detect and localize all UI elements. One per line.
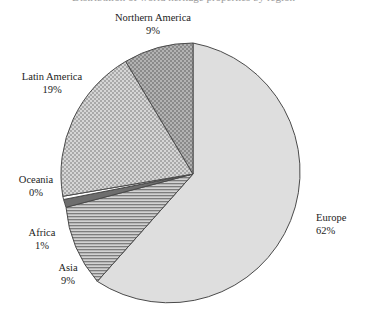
slice-label-africa-percent: 1% xyxy=(6,240,78,253)
slice-label-africa: Africa 1% xyxy=(6,227,78,252)
slice-label-europe-name: Europe xyxy=(316,212,367,225)
slice-label-oceania-name: Oceania xyxy=(0,174,72,187)
slice-label-asia-name: Asia xyxy=(30,262,106,275)
slice-label-northern-america: Northern America 9% xyxy=(88,12,218,37)
slice-label-northern-america-percent: 9% xyxy=(88,25,218,38)
slice-label-oceania: Oceania 0% xyxy=(0,174,72,199)
slice-label-latin-america: Latin America 19% xyxy=(4,71,100,96)
pie-chart-screenshot: Distribution of world heritage propertie… xyxy=(0,0,367,312)
slice-label-asia-percent: 9% xyxy=(30,275,106,288)
slice-label-latin-america-percent: 19% xyxy=(4,84,100,97)
slice-label-europe-percent: 62% xyxy=(316,225,367,238)
slice-label-africa-name: Africa xyxy=(6,227,78,240)
slice-label-latin-america-name: Latin America xyxy=(4,71,100,84)
slice-label-europe: Europe 62% xyxy=(316,212,367,237)
slice-label-asia: Asia 9% xyxy=(30,262,106,287)
slice-label-northern-america-name: Northern America xyxy=(88,12,218,25)
slice-label-oceania-percent: 0% xyxy=(0,187,72,200)
